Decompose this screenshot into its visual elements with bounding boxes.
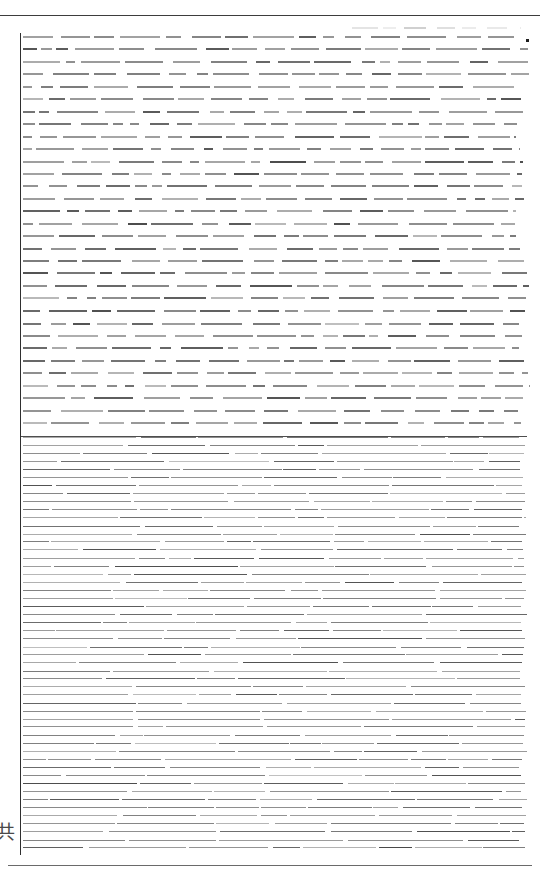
running-head-fragment (352, 27, 520, 31)
text-block-left-rule (20, 33, 21, 855)
body-text-block (23, 36, 530, 434)
scanned-page: 共 (0, 0, 540, 875)
dense-notes-block (23, 437, 527, 856)
margin-glyph: 共 (0, 823, 15, 842)
page-rule-top (0, 15, 540, 16)
page-rule-bottom (8, 865, 532, 866)
